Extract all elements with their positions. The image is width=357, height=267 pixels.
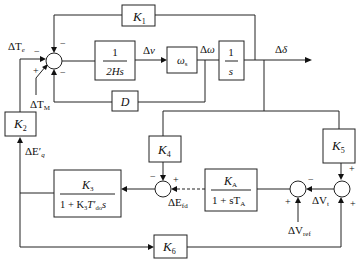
- sign-minus-d: −: [60, 67, 66, 78]
- delta-efd-label: ΔEfd: [168, 196, 188, 210]
- sign-plus-vref: +: [285, 196, 291, 207]
- sign-minus-k4: −: [150, 171, 156, 182]
- sign-plus-k5: +: [349, 163, 355, 174]
- sign-plus-efd: +: [173, 174, 179, 185]
- arrowhead: [51, 47, 57, 53]
- delta-vt-label: ΔVt: [312, 194, 329, 208]
- delta-te-label: ΔTe: [8, 40, 25, 54]
- vref-summing-junction: [290, 181, 306, 197]
- arrowhead: [40, 56, 46, 62]
- sign-minus-k1: −: [60, 38, 66, 49]
- arrowhead: [306, 186, 312, 192]
- delta-vref-label: ΔVref: [288, 224, 311, 238]
- arrowhead: [121, 186, 127, 192]
- arrowhead: [338, 197, 344, 203]
- delta-eq-label: ΔE′q: [25, 145, 45, 159]
- sign-plus-tm: +: [33, 65, 39, 76]
- inertia-denominator: 2Hs: [106, 65, 124, 77]
- vt-summing-junction: [334, 181, 350, 197]
- delta-tm-label: ΔTM: [30, 98, 51, 112]
- arrowhead: [305, 57, 312, 63]
- arrowhead: [160, 175, 166, 181]
- arrowhead: [338, 174, 344, 180]
- field-summing-junction: [155, 181, 171, 197]
- arrowhead: [295, 197, 301, 203]
- inertia-numerator: 1: [112, 46, 118, 58]
- arrowhead: [148, 244, 154, 250]
- arrowhead: [161, 57, 167, 63]
- delta-v-label: Δv: [143, 44, 155, 56]
- damping-label: D: [120, 95, 130, 109]
- arrowhead: [51, 69, 57, 75]
- sign-plus-k6: +: [350, 198, 356, 209]
- delta-delta-label: Δδ: [275, 43, 288, 55]
- k4-bus-line: [163, 111, 339, 129]
- arrowhead: [17, 137, 23, 143]
- arrowhead: [171, 186, 177, 192]
- integrator-numerator: 1: [228, 46, 234, 58]
- block-diagram: K1 1 2Hs ωs 1 s D K2 K3 1 + K3T′dos K4 K…: [0, 0, 357, 267]
- sign-minus-vt: −: [308, 174, 314, 185]
- delta-omega-label: Δω: [200, 43, 215, 55]
- sign-minus-te: −: [34, 46, 40, 57]
- integrator-denominator: s: [229, 65, 233, 77]
